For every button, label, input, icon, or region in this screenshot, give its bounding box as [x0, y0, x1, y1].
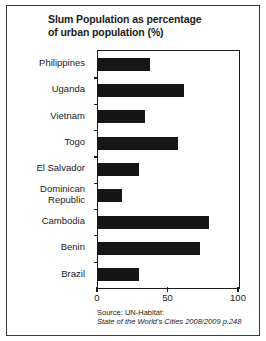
y-axis-tick: [94, 77, 98, 78]
y-axis-label-line: Uganda: [52, 83, 85, 94]
plot-area: [97, 50, 240, 289]
y-axis-label-el-salvador: El Salvador: [36, 163, 85, 174]
y-axis-tick: [94, 262, 98, 263]
chart-title-line-2: of urban population (%): [48, 26, 248, 39]
y-axis-label-uganda: Uganda: [52, 84, 85, 95]
y-axis-label-line: Republic: [40, 195, 85, 206]
y-axis-tick: [94, 104, 98, 105]
bar-row: [98, 183, 239, 209]
chart-title: Slum Population as percentage of urban p…: [48, 13, 248, 38]
chart-title-line-1: Slum Population as percentage: [48, 13, 201, 25]
bar-el-salvador: [98, 163, 139, 176]
bar-uganda: [98, 84, 184, 97]
y-axis-label-line: El Salvador: [36, 162, 85, 173]
y-axis-label-line: Brazil: [61, 268, 85, 279]
bar-row: [98, 104, 239, 130]
y-axis-label-line: Benin: [61, 241, 85, 252]
bar-benin: [98, 242, 200, 255]
chart-figure: Slum Population as percentage of urban p…: [0, 0, 266, 341]
y-axis-label-line: Philippines: [39, 57, 85, 68]
y-axis-label-cell: Cambodia: [6, 208, 91, 234]
bar-row: [98, 209, 239, 235]
bar-vietnam: [98, 110, 145, 123]
y-axis-tick: [94, 130, 98, 131]
y-axis-label-cell: DominicanRepublic: [6, 182, 91, 208]
y-axis-label-dominican-republic: DominicanRepublic: [40, 184, 85, 205]
bar-cambodia: [98, 216, 209, 229]
y-axis-label-line: Togo: [64, 136, 85, 147]
bar-brazil: [98, 268, 139, 281]
y-axis-label-cell: Benin: [6, 234, 91, 260]
y-axis-tick: [94, 183, 98, 184]
bar-dominican-republic: [98, 189, 122, 202]
y-axis-label-cell: Togo: [6, 129, 91, 155]
bar-row: [98, 156, 239, 182]
y-axis-tick: [94, 156, 98, 157]
x-axis-tick-label: 100: [230, 292, 246, 303]
y-axis-label-cell: Brazil: [6, 261, 91, 287]
source-note: Source: UN-Habitat: State of the World's…: [97, 308, 257, 326]
y-axis-label-cell: Uganda: [6, 76, 91, 102]
y-axis-label-line: Dominican: [40, 183, 85, 194]
y-axis-tick: [94, 209, 98, 210]
bar-row: [98, 51, 239, 77]
x-axis-tick-label: 50: [162, 292, 173, 303]
y-axis-tick: [94, 235, 98, 236]
y-axis-label-cambodia: Cambodia: [42, 216, 85, 227]
y-axis-label-cell: El Salvador: [6, 155, 91, 181]
y-axis-label-cell: Philippines: [6, 50, 91, 76]
y-axis-label-brazil: Brazil: [61, 269, 85, 280]
bar-row: [98, 130, 239, 156]
bar-rows: [98, 51, 239, 288]
y-axis-label-cell: Vietnam: [6, 103, 91, 129]
y-axis-label-philippines: Philippines: [39, 58, 85, 69]
bar-row: [98, 235, 239, 261]
bar-row: [98, 262, 239, 288]
source-line-2: State of the World's Cities 2008/2009 p.…: [97, 317, 257, 326]
bar-philippines: [98, 58, 150, 71]
y-axis-labels: PhilippinesUgandaVietnamTogoEl SalvadorD…: [6, 50, 91, 287]
bar-togo: [98, 137, 178, 150]
y-axis-label-togo: Togo: [64, 137, 85, 148]
x-axis-tick-labels: 050100: [97, 292, 238, 306]
bar-row: [98, 77, 239, 103]
y-axis-label-line: Cambodia: [42, 215, 85, 226]
source-line-1: Source: UN-Habitat:: [97, 308, 164, 317]
x-axis-tick-label: 0: [94, 292, 99, 303]
y-axis-label-line: Vietnam: [50, 110, 85, 121]
y-axis-label-vietnam: Vietnam: [50, 111, 85, 122]
y-axis-label-benin: Benin: [61, 242, 85, 253]
